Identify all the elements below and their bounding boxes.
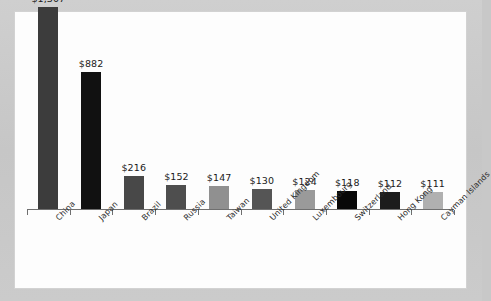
bar[interactable] xyxy=(124,176,144,209)
x-axis-category-labels: ChinaJapanBrazilRussiaTaiwanUnited Kingd… xyxy=(27,216,454,288)
x-axis-tick xyxy=(27,210,28,215)
bar-value-label: $152 xyxy=(164,171,189,182)
bar-value-label: $216 xyxy=(121,162,146,173)
bar-group: $130 xyxy=(241,12,284,209)
bar-value-label: $130 xyxy=(250,175,275,186)
bar-group: $152 xyxy=(155,12,198,209)
bar[interactable] xyxy=(81,72,101,209)
bar[interactable] xyxy=(166,185,186,209)
chart-panel: $1,307$882$216$152$147$130$124$118$112$1… xyxy=(15,12,466,288)
bar-series: $1,307$882$216$152$147$130$124$118$112$1… xyxy=(27,12,454,209)
bar[interactable] xyxy=(38,7,58,209)
plot-area: $1,307$882$216$152$147$130$124$118$112$1… xyxy=(15,12,466,288)
bar-group: $112 xyxy=(369,12,412,209)
bar-group: $216 xyxy=(112,12,155,209)
bar-group: $111 xyxy=(411,12,454,209)
bar-value-label: $882 xyxy=(79,58,104,69)
bar[interactable] xyxy=(209,186,229,209)
bar[interactable] xyxy=(252,189,272,209)
bar-value-label: $1,307 xyxy=(31,0,65,4)
bar-group: $882 xyxy=(70,12,113,209)
bar-group: $147 xyxy=(198,12,241,209)
bar-group: $1,307 xyxy=(27,12,70,209)
bar-value-label: $147 xyxy=(207,172,232,183)
